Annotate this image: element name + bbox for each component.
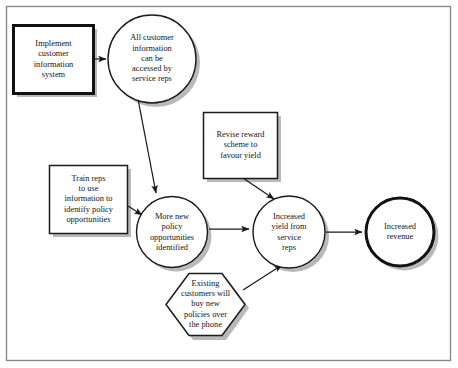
node-train-reps[interactable] [50,166,128,234]
node-all-customer-information-accessed[interactable] [108,15,196,103]
diagram-canvas: Implement customer information system Al… [0,0,458,368]
node-increased-yield-from-service-reps[interactable] [253,196,325,268]
node-implement-customer-information-system[interactable] [14,26,94,94]
node-revise-reward-scheme[interactable] [204,113,278,179]
diagram-svg [0,0,458,368]
node-increased-revenue[interactable] [366,198,434,266]
node-more-new-policy-opportunities[interactable] [137,197,208,268]
